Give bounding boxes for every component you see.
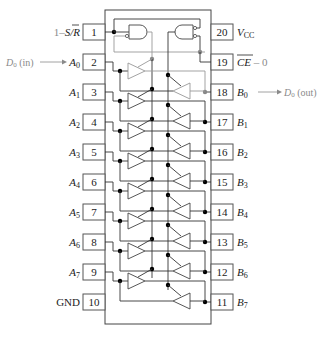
buffer-a-to-b	[128, 213, 145, 229]
pin-number: 2	[91, 56, 97, 68]
buffer-a-to-b	[128, 243, 145, 259]
pin-11: 11	[211, 294, 233, 310]
pin-3: 3	[83, 84, 105, 100]
buffer-a-to-b	[128, 273, 145, 289]
label-B5: B5	[237, 236, 248, 250]
buffer-b-to-a	[173, 203, 190, 219]
buffer-b-to-a	[173, 113, 190, 129]
label-A4: A4	[68, 176, 80, 190]
annotation-d0-out: D0 (out)	[283, 87, 317, 100]
pin-20: 20	[211, 24, 233, 40]
pin-9: 9	[83, 264, 105, 280]
pin-number: 19	[217, 56, 229, 68]
label-A0: A0	[68, 56, 80, 70]
annotation-d0-in: D0 (in)	[5, 57, 34, 70]
pin-15: 15	[211, 174, 233, 190]
buffer-b-to-a	[173, 83, 190, 99]
pin-number: 18	[217, 86, 229, 98]
pin-number: 14	[217, 206, 229, 218]
pin-number: 5	[91, 146, 97, 158]
pin-number: 17	[217, 116, 229, 128]
pin-number: 15	[217, 176, 229, 188]
pin-number: 16	[217, 146, 229, 158]
pin-7: 7	[83, 204, 105, 220]
label-B4: B4	[237, 206, 248, 220]
label-B7: B7	[237, 296, 248, 310]
label-A2: A2	[68, 116, 80, 130]
label-A3: A3	[68, 146, 80, 160]
pin-14: 14	[211, 204, 233, 220]
pin-16: 16	[211, 144, 233, 160]
pin-number: 7	[91, 206, 97, 218]
pin-8: 8	[83, 234, 105, 250]
buffer-b-to-a	[173, 233, 190, 249]
pin-1-label: 1–S/R	[54, 26, 81, 38]
buffer-a-to-b	[128, 93, 145, 109]
pin-labels: 1–S/RA0A1A2A3A4A5A6A7GNDVCCCE – 0B0B1B2B…	[5, 25, 317, 310]
label-B0: B0	[237, 86, 248, 100]
pin-12: 12	[211, 264, 233, 280]
pin-19: 19	[211, 54, 233, 70]
buffer-a-to-b	[128, 63, 145, 79]
label-vcc: VCC	[237, 26, 254, 40]
buffer-b-to-a	[173, 143, 190, 159]
buffer-a-to-b	[128, 153, 145, 169]
pin-number: 10	[89, 296, 101, 308]
buffer-b-to-a	[173, 263, 190, 279]
label-B1: B1	[237, 116, 248, 130]
left-pins: 12345678910	[83, 24, 105, 310]
internal-circuit	[105, 19, 211, 309]
pin-number: 6	[91, 176, 97, 188]
ic-pinout-diagram: 12345678910 20191817161514131211 1–S/RA0…	[0, 0, 319, 338]
pin-6: 6	[83, 174, 105, 190]
pin-number: 13	[217, 236, 229, 248]
pin-2: 2	[83, 54, 105, 70]
buffer-b-to-a	[173, 293, 190, 309]
label-B2: B2	[237, 146, 248, 160]
pin-number: 1	[91, 26, 97, 38]
pin-5: 5	[83, 144, 105, 160]
pin-4: 4	[83, 114, 105, 130]
pin-number: 3	[91, 86, 97, 98]
label-A7: A7	[68, 266, 80, 280]
buffer-b-to-a	[173, 173, 190, 189]
buffer-a-to-b	[128, 183, 145, 199]
label-ce: CE – 0	[237, 56, 268, 68]
ic-body	[105, 10, 211, 324]
pin-number: 9	[91, 266, 97, 278]
label-A1: A1	[68, 86, 80, 100]
pin-17: 17	[211, 114, 233, 130]
pin-1: 1	[83, 24, 105, 40]
pin-13: 13	[211, 234, 233, 250]
label-B6: B6	[237, 266, 248, 280]
pin-number: 20	[217, 26, 229, 38]
pin-10: 10	[83, 294, 105, 310]
label-gnd: GND	[56, 296, 80, 308]
pin-number: 12	[217, 266, 228, 278]
pin-18: 18	[211, 84, 233, 100]
pin-number: 4	[91, 116, 97, 128]
nand-gate-direction	[129, 25, 147, 39]
pin-number: 11	[217, 296, 228, 308]
label-B3: B3	[237, 176, 248, 190]
nand-gate-enable	[175, 25, 193, 39]
label-A5: A5	[68, 206, 80, 220]
label-A6: A6	[68, 236, 80, 250]
right-pins: 20191817161514131211	[211, 24, 233, 310]
buffer-a-to-b	[128, 123, 145, 139]
pin-number: 8	[91, 236, 97, 248]
